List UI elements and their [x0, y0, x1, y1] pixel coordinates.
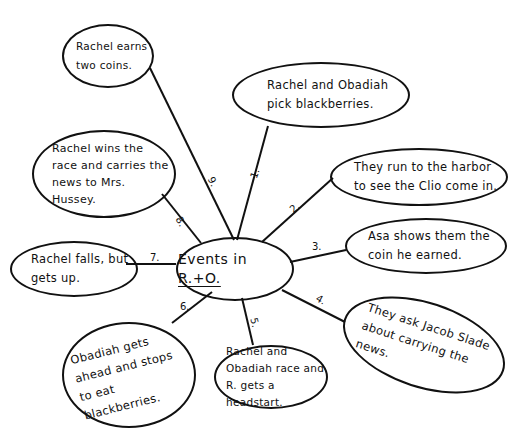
event-9: Rachel earns two coins. — [62, 24, 154, 88]
label-3: 3. — [312, 241, 322, 252]
label-7: 7. — [150, 252, 160, 263]
label-6: 6. — [180, 301, 190, 312]
event-7: Rachel falls, but gets up. — [10, 241, 138, 297]
event-3: Asa shows them the coin he earned. — [345, 218, 507, 274]
event-1: Rachel and Obadiah pick blackberries. — [232, 62, 410, 128]
event-8: Rachel wins the race and carries the new… — [32, 130, 176, 218]
event-5: Rachel and Obadiah race and R. gets a he… — [214, 345, 328, 409]
center-underlined: R.+O. — [178, 270, 221, 286]
center-prefix: Events in — [178, 251, 247, 267]
event-2: They run to the harbor to see the Clio c… — [330, 148, 508, 206]
central-topic: Events in R.+O. — [176, 237, 294, 301]
event-6: Obadiah gets ahead and stops to eat blac… — [62, 322, 196, 428]
